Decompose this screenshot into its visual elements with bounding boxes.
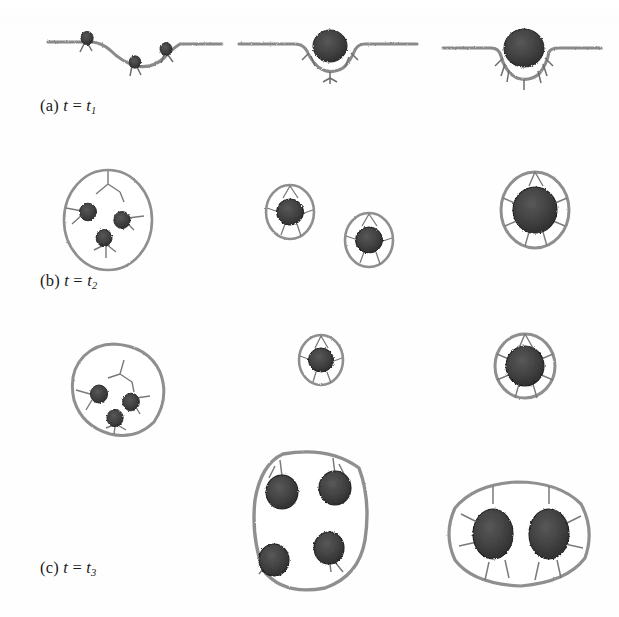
caption-c-equals: = — [72, 558, 82, 577]
panel-c3-large — [425, 470, 619, 610]
panel-c3-small — [425, 316, 619, 426]
panel-b1 — [36, 158, 236, 276]
caption-b-subscript: 2 — [92, 280, 97, 291]
vesicle-c2-small — [299, 335, 343, 385]
panel-c2-small — [233, 316, 433, 426]
vesicle-b2-1 — [266, 185, 314, 239]
panel-a1 — [40, 24, 230, 86]
caption-c: (c) t = t3 — [40, 558, 96, 578]
caption-b-prefix: (b) — [40, 271, 60, 290]
caption-a-variable: t — [63, 96, 68, 115]
caption-c-prefix: (c) — [40, 558, 59, 577]
panel-b2 — [233, 158, 433, 276]
caption-a-prefix: (a) — [40, 96, 59, 115]
caption-b-variable: t — [64, 271, 69, 290]
nanoparticle-b3 — [513, 187, 557, 233]
caption-a-subscript: 1 — [91, 105, 96, 116]
caption-c-variable: t — [63, 558, 68, 577]
vesicle-c3-small — [495, 334, 555, 398]
panel-a2 — [233, 20, 423, 90]
panel-c2-large — [225, 438, 425, 606]
nanoparticle-a2 — [313, 30, 347, 62]
caption-b: (b) t = t2 — [40, 271, 97, 291]
figure-canvas: (a) t = t1 — [0, 0, 619, 617]
panel-b3 — [425, 158, 619, 276]
panel-a3 — [425, 18, 615, 94]
caption-a: (a) t = t1 — [40, 96, 96, 116]
panel-c1 — [36, 316, 236, 446]
vesicle-b2-2 — [345, 213, 393, 267]
nanoparticle-a3 — [504, 29, 544, 67]
caption-c-subscript: 3 — [91, 567, 96, 578]
caption-a-equals: = — [72, 96, 82, 115]
caption-b-equals: = — [73, 271, 83, 290]
